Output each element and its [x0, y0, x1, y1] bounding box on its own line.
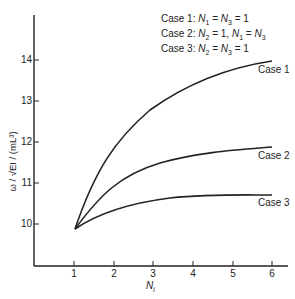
y-tick-label: 14: [12, 54, 32, 65]
x-tick-label: 3: [147, 268, 159, 279]
x-tick-label: 4: [187, 268, 199, 279]
x-ticks: [74, 261, 272, 266]
y-tick-label: 12: [12, 136, 32, 147]
case-legend: Case 1: N1 = N3 = 1 Case 2: N2 = 1, N1 =…: [161, 13, 266, 58]
series-label-case-1: Case 1: [258, 64, 290, 75]
y-axis-label: ω / √EI / (mL³): [7, 112, 18, 212]
x-tick-label: 5: [227, 268, 239, 279]
y-tick-label: 10: [12, 218, 32, 229]
x-tick-label: 2: [108, 268, 120, 279]
legend-case-2: Case 2: N2 = 1, N1 = N3: [161, 28, 266, 43]
series-label-case-2: Case 2: [258, 150, 290, 161]
y-tick-label: 13: [12, 95, 32, 106]
legend-case-3: Case 3: N2 = N3 = 1: [161, 43, 266, 58]
series-label-case-3: Case 3: [258, 197, 290, 208]
y-ticks: [34, 60, 39, 224]
x-tick-label: 6: [266, 268, 278, 279]
series-case-2-line: [75, 147, 272, 229]
x-axis-label: Ni: [146, 280, 155, 293]
series-case-1-line: [75, 61, 272, 229]
series-case-3-line: [75, 195, 272, 229]
y-tick-label: 11: [12, 177, 32, 188]
x-tick-label: 1: [68, 268, 80, 279]
legend-case-1: Case 1: N1 = N3 = 1: [161, 13, 266, 28]
